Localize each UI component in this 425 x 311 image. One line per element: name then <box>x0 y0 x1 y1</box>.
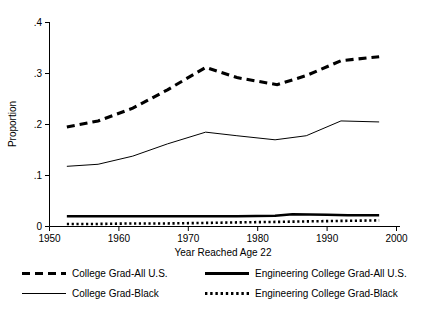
y-axis-title: Proportion <box>7 101 18 147</box>
x-tick-label-1950: 1950 <box>38 233 61 244</box>
y-tick-label-3: .3 <box>34 68 43 79</box>
x-tick-label-2000: 2000 <box>385 233 408 244</box>
figure-background <box>0 0 425 311</box>
legend-label-college-grad-black: College Grad-Black <box>72 288 160 299</box>
legend-label-eng-college-grad-all-us: Engineering College Grad-All U.S. <box>255 268 407 279</box>
y-tick-label-0: 0 <box>36 221 42 232</box>
x-tick-label-1960: 1960 <box>108 233 131 244</box>
legend-label-eng-college-grad-black: Engineering College Grad-Black <box>255 288 399 299</box>
x-axis-title: Year Reached Age 22 <box>175 247 272 258</box>
x-tick-label-1970: 1970 <box>177 233 200 244</box>
y-tick-label-1: .1 <box>34 170 43 181</box>
chart-figure: .4 .3 .2 .1 0 Proportion 1950 1960 1970 … <box>0 0 425 311</box>
x-tick-label-1990: 1990 <box>316 233 339 244</box>
y-tick-label-2: .2 <box>34 119 43 130</box>
x-tick-label-1980: 1980 <box>247 233 270 244</box>
legend-label-college-grad-all-us: College Grad-All U.S. <box>72 268 168 279</box>
y-tick-label-4: .4 <box>34 17 43 28</box>
chart-svg: .4 .3 .2 .1 0 Proportion 1950 1960 1970 … <box>0 0 425 311</box>
